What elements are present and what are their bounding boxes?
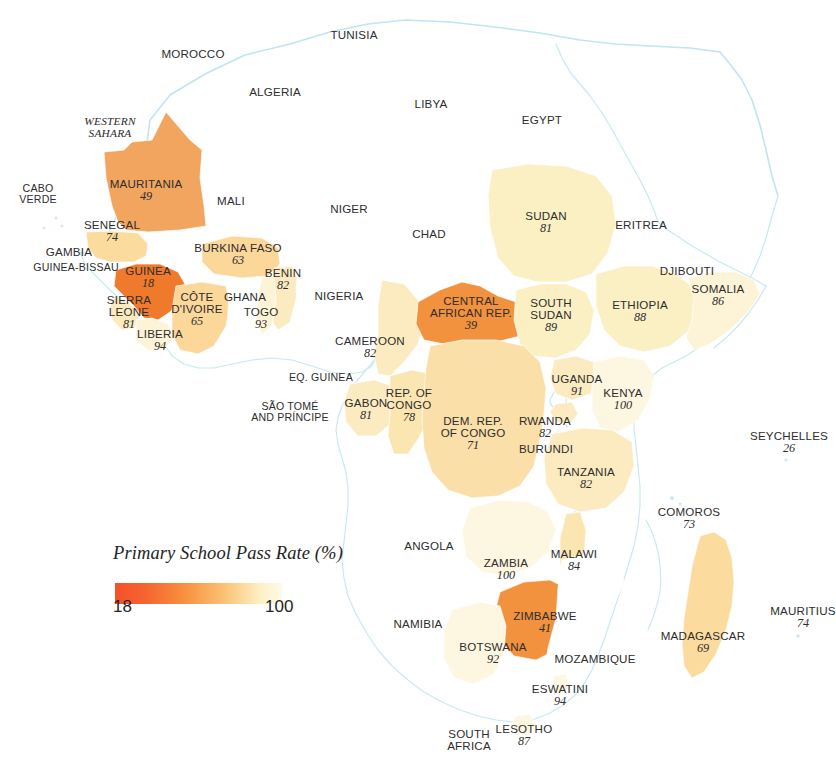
country-name: SIERRA bbox=[107, 294, 151, 306]
country-name: LIBYA bbox=[414, 98, 447, 110]
country-label: SOMALIA86 bbox=[692, 283, 745, 308]
country-value: 88 bbox=[612, 311, 668, 324]
country-label: BOTSWANA92 bbox=[459, 641, 527, 666]
country-value: 92 bbox=[459, 653, 527, 666]
country-label: BENIN82 bbox=[265, 267, 301, 292]
country-name: EGYPT bbox=[522, 114, 562, 126]
country-value: 100 bbox=[603, 399, 642, 412]
country-name: GAMBIA bbox=[46, 246, 92, 258]
country-label: GABON81 bbox=[345, 397, 388, 422]
country-label: SOUTHSUDAN89 bbox=[530, 297, 572, 334]
country-name: VERDE bbox=[19, 194, 57, 205]
country-value: 74 bbox=[84, 231, 140, 244]
country-label: BURUNDI bbox=[519, 443, 573, 455]
country-value: 49 bbox=[110, 190, 183, 203]
country-value: 94 bbox=[137, 340, 183, 353]
country-name: BOTSWANA bbox=[459, 641, 527, 653]
country-name: TANZANIA bbox=[557, 466, 615, 478]
country-name: D'IVOIRE bbox=[171, 303, 223, 315]
country-name: RWANDA bbox=[519, 415, 571, 427]
country-label: CAMEROON82 bbox=[335, 335, 405, 360]
country-value: 86 bbox=[692, 295, 745, 308]
country-value: 91 bbox=[552, 385, 603, 398]
country-value: 41 bbox=[513, 622, 576, 635]
country-label: GUINEA18 bbox=[125, 265, 171, 290]
country-label: CHAD bbox=[412, 228, 446, 240]
country-name: CENTRAL bbox=[430, 295, 512, 307]
country-name: SAHARA bbox=[84, 128, 135, 140]
country-name: MOZAMBIQUE bbox=[554, 653, 635, 665]
country-name: CHAD bbox=[412, 228, 446, 240]
country-value: 26 bbox=[750, 442, 828, 455]
country-name: ALGERIA bbox=[249, 86, 301, 98]
country-value: 73 bbox=[658, 518, 721, 531]
country-label: BURKINA FASO63 bbox=[194, 242, 281, 267]
country-value: 81 bbox=[345, 409, 388, 422]
country-value: 84 bbox=[551, 560, 598, 573]
country-label: GHANA bbox=[224, 291, 266, 303]
country-name: ZIMBABWE bbox=[513, 610, 576, 622]
country-name: MAURITANIA bbox=[110, 178, 183, 190]
country-name: SÃO TOMÉ bbox=[251, 401, 329, 412]
country-label: EQ. GUINEA bbox=[289, 372, 353, 383]
country-label: TANZANIA82 bbox=[557, 466, 615, 491]
country-name: SOUTH bbox=[530, 297, 572, 309]
country-label: MAURITANIA49 bbox=[110, 178, 183, 203]
country-name: CONGO bbox=[386, 399, 432, 411]
country-label: NIGER bbox=[330, 203, 368, 215]
country-label: EGYPT bbox=[522, 114, 562, 126]
country-name: ZAMBIA bbox=[484, 557, 528, 569]
country-name: GHANA bbox=[224, 291, 266, 303]
country-label: ALGERIA bbox=[249, 86, 301, 98]
country-label: DJIBOUTI bbox=[660, 265, 714, 277]
country-name: AFRICAN REP. bbox=[430, 307, 512, 319]
country-label: COMOROS73 bbox=[658, 506, 721, 531]
country-label: CABOVERDE bbox=[19, 183, 57, 205]
country-label: CÔTED'IVOIRE65 bbox=[171, 291, 223, 328]
country-value: 81 bbox=[525, 222, 567, 235]
country-name: MALI bbox=[217, 195, 245, 207]
country-name: ANGOLA bbox=[404, 540, 454, 552]
country-name: SUDAN bbox=[525, 210, 567, 222]
country-label: ZIMBABWE41 bbox=[513, 610, 576, 635]
country-label: TUNISIA bbox=[330, 29, 377, 41]
country-name: NIGERIA bbox=[314, 290, 363, 302]
country-value: 81 bbox=[107, 318, 151, 331]
country-name: LESOTHO bbox=[496, 723, 553, 735]
country-value: 82 bbox=[335, 347, 405, 360]
legend-title: Primary School Pass Rate (%) bbox=[113, 543, 343, 564]
country-name: DJIBOUTI bbox=[660, 265, 714, 277]
country-value: 82 bbox=[557, 478, 615, 491]
country-label: ERITREA bbox=[615, 219, 667, 231]
country-label: LIBYA bbox=[414, 98, 447, 110]
country-label: ESWATINI94 bbox=[532, 683, 588, 708]
country-name: ETHIOPIA bbox=[612, 299, 668, 311]
country-value: 100 bbox=[484, 569, 528, 582]
country-name: NIGER bbox=[330, 203, 368, 215]
country-label: ZAMBIA100 bbox=[484, 557, 528, 582]
country-name: LIBERIA bbox=[137, 328, 183, 340]
country-label: REP. OFCONGO78 bbox=[386, 387, 432, 424]
country-label: KENYA100 bbox=[603, 387, 642, 412]
country-label: MAURITIUS74 bbox=[770, 605, 836, 630]
legend-bar-spacer bbox=[115, 573, 283, 594]
country-value: 18 bbox=[125, 277, 171, 290]
country-value: 65 bbox=[171, 315, 223, 328]
country-label: MALI bbox=[217, 195, 245, 207]
country-label: MALAWI84 bbox=[551, 548, 598, 573]
country-label: NAMIBIA bbox=[393, 618, 442, 630]
country-name: GABON bbox=[345, 397, 388, 409]
map-legend: Primary School Pass Rate (%) 18 100 bbox=[113, 543, 343, 617]
country-name: CAMEROON bbox=[335, 335, 405, 347]
country-name: CABO bbox=[19, 183, 57, 194]
country-name: MAURITIUS bbox=[770, 605, 836, 617]
country-label: ETHIOPIA88 bbox=[612, 299, 668, 324]
country-label: GAMBIA bbox=[46, 246, 92, 258]
country-name: OF CONGO bbox=[441, 427, 506, 439]
country-value: 71 bbox=[441, 439, 506, 452]
country-name: SEYCHELLES bbox=[750, 430, 828, 442]
country-label: WESTERNSAHARA bbox=[84, 116, 135, 140]
country-name: BURUNDI bbox=[519, 443, 573, 455]
country-name: SOUTH bbox=[447, 728, 491, 740]
